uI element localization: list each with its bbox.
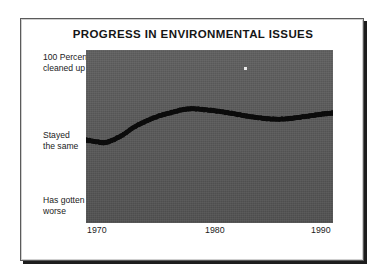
y-axis-label-middle-line2: the same [43,141,78,152]
x-axis-tick-1990: 1990 [311,225,331,235]
series-line [86,50,333,223]
y-axis-label-middle: Stayed the same [43,130,78,151]
page-title: PROGRESS IN ENVIRONMENTAL ISSUES [21,28,365,40]
plot-area [86,50,333,223]
y-axis-label-bottom: Has gotten worse [43,195,85,216]
y-axis-label-bottom-line2: worse [43,206,85,217]
figure-frame: PROGRESS IN ENVIRONMENTAL ISSUES 100 Per… [20,18,364,261]
y-axis-label-middle-line1: Stayed [43,130,78,141]
y-axis-label-top: 100 Percent cleaned up [43,52,89,73]
y-axis-label-bottom-line1: Has gotten [43,195,85,206]
y-axis-label-top-line1: 100 Percent [43,52,89,63]
x-axis-tick-1980: 1980 [205,225,225,235]
y-axis-label-top-line2: cleaned up [43,63,89,74]
x-axis-tick-1970: 1970 [87,225,107,235]
